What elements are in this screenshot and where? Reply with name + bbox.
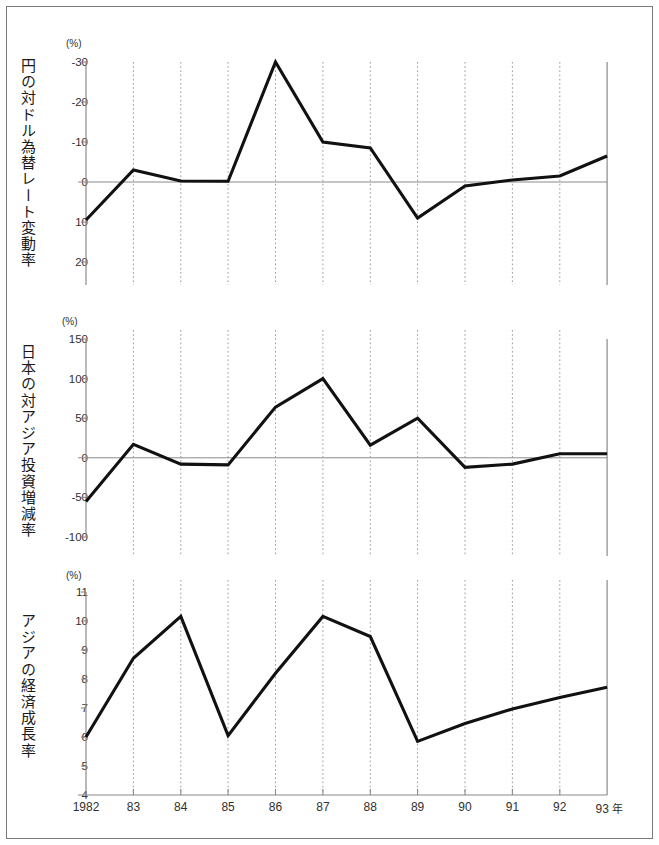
year-suffix-label: 年 (612, 803, 623, 815)
xtick-87: 87 (316, 800, 329, 814)
xtick-83: 83 (127, 800, 140, 814)
chart-figure: 円の対ドル為替レート変動率 (%) -30 -20 -10 0 10 20 (0, 0, 659, 845)
xtick-91: 91 (506, 800, 519, 814)
xtick-1982: 1982 (73, 800, 100, 814)
xtick-93: 93年 (596, 800, 623, 816)
xtick-89: 89 (411, 800, 424, 814)
x-axis-labels: 1982 83 84 85 86 87 88 89 90 91 92 93年 (0, 0, 659, 845)
xtick-93-year: 93 (596, 802, 609, 816)
xtick-88: 88 (364, 800, 377, 814)
xtick-85: 85 (221, 800, 234, 814)
xtick-84: 84 (174, 800, 187, 814)
xtick-90: 90 (458, 800, 471, 814)
xtick-86: 86 (269, 800, 282, 814)
xtick-92: 92 (553, 800, 566, 814)
